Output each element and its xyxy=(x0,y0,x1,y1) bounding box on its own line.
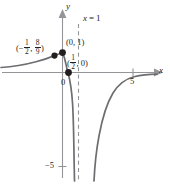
point-y-intercept xyxy=(59,49,66,56)
fraction-denominator: 9 xyxy=(35,47,41,56)
plot-canvas xyxy=(0,0,170,184)
label-local-max-x-sign: − xyxy=(19,43,24,53)
x-tick-label-5: 5 xyxy=(130,77,134,86)
asymptote-equation-value: 1 xyxy=(96,13,101,23)
label-local-max-x-fraction: 1 2 xyxy=(24,39,30,56)
fraction-numerator: 1 xyxy=(24,39,30,47)
asymptote-equation-operator: = xyxy=(89,13,94,23)
fraction-denominator: 2 xyxy=(24,47,30,56)
label-local-max-close: ) xyxy=(41,43,44,53)
point-local-maximum xyxy=(51,53,57,59)
label-y-intercept: (0, 1) xyxy=(66,38,84,47)
x-axis-label: x xyxy=(159,66,163,75)
label-local-max-y-fraction: 8 9 xyxy=(35,39,41,56)
label-local-max-comma: , xyxy=(30,43,34,53)
graph-figure: y x 0 5 −5 x=1 (− 1 2 , 8 9 ) (0, 1) ( 1… xyxy=(0,0,170,184)
fraction-numerator: 8 xyxy=(35,39,41,47)
y-axis-label: y xyxy=(66,2,70,11)
y-tick-label-minus5: −5 xyxy=(45,161,54,170)
y-axis xyxy=(59,9,67,178)
asymptote-equation-variable: x xyxy=(83,13,87,23)
curve-right-branch xyxy=(94,74,157,181)
origin-label: 0 xyxy=(61,78,65,87)
label-x-intercept-close: ) xyxy=(85,58,88,68)
label-local-maximum: (− 1 2 , 8 9 ) xyxy=(16,39,44,56)
label-x-intercept-comma: , 0 xyxy=(76,58,85,68)
asymptote-equation: x=1 xyxy=(83,14,101,23)
label-x-intercept: ( 1 2 , 0) xyxy=(67,54,88,71)
